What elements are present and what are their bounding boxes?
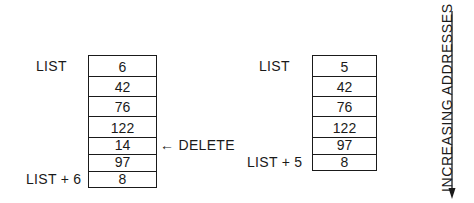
cell-value: 8 bbox=[119, 172, 127, 188]
left-list-end-label: LIST + 6 bbox=[26, 171, 81, 187]
left-cell-3: 122 bbox=[89, 116, 156, 137]
cell-value: 42 bbox=[337, 80, 353, 96]
cell-value: 6 bbox=[119, 60, 127, 76]
right-memory-stack: 5 42 76 122 97 8 bbox=[312, 55, 377, 171]
delete-label: DELETE bbox=[179, 137, 235, 153]
left-cell-6: 8 bbox=[89, 171, 156, 188]
cell-value: 8 bbox=[341, 155, 349, 171]
down-arrow-icon bbox=[446, 10, 458, 200]
cell-value: 14 bbox=[115, 138, 131, 154]
cell-value: 122 bbox=[111, 121, 134, 137]
left-list-start-label: LIST bbox=[36, 58, 67, 74]
left-memory-stack: 6 42 76 122 14 97 8 bbox=[88, 55, 157, 188]
cell-value: 76 bbox=[115, 100, 131, 116]
right-cell-4: 97 bbox=[313, 137, 376, 154]
cell-value: 5 bbox=[341, 60, 349, 76]
right-cell-3: 122 bbox=[313, 116, 376, 137]
cell-value: 76 bbox=[337, 100, 353, 116]
right-list-end-label: LIST + 5 bbox=[247, 154, 302, 170]
right-cell-1: 42 bbox=[313, 76, 376, 96]
cell-value: 42 bbox=[115, 80, 131, 96]
delete-marker: ← DELETE bbox=[160, 137, 235, 153]
cell-value: 97 bbox=[115, 155, 131, 171]
cell-value: 122 bbox=[333, 121, 356, 137]
right-list-start-label: LIST bbox=[259, 58, 290, 74]
cell-value: 97 bbox=[337, 138, 353, 154]
left-cell-0: 6 bbox=[89, 56, 156, 76]
right-cell-0: 5 bbox=[313, 56, 376, 76]
left-cell-4-deleted: 14 bbox=[89, 137, 156, 154]
left-cell-5: 97 bbox=[89, 154, 156, 171]
left-cell-1: 42 bbox=[89, 76, 156, 96]
right-cell-2: 76 bbox=[313, 96, 376, 116]
left-arrow-icon: ← bbox=[160, 137, 174, 153]
left-cell-2: 76 bbox=[89, 96, 156, 116]
right-cell-5: 8 bbox=[313, 154, 376, 171]
